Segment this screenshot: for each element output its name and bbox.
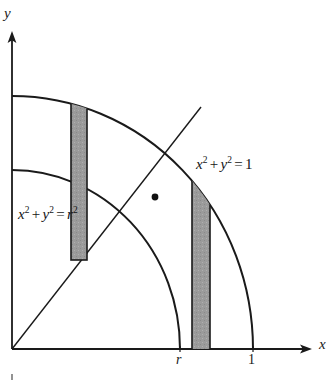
shaded-strip-right: [192, 150, 210, 355]
figure-container: y x r 1 x2+y2=1 x2+y2=r2: [0, 0, 336, 381]
y-axis: [8, 31, 17, 349]
diagram-canvas: [0, 0, 336, 381]
x-axis-label: x: [319, 336, 326, 353]
x-axis: [12, 345, 312, 354]
y-axis-label: y: [4, 5, 11, 22]
diagonal-line: [12, 107, 201, 349]
inner-circle-equation-label: x2+y2=r2: [18, 206, 78, 223]
x-tick-label-one: 1: [248, 352, 255, 368]
inner-eq-plus: +: [30, 206, 43, 222]
outer-eq-plus: +: [208, 156, 221, 172]
point-on-diagonal: [152, 194, 159, 201]
outer-eq-equals: =: [232, 156, 245, 172]
inner-eq-equals: =: [54, 206, 67, 222]
outer-eq-var-x: x: [196, 156, 203, 172]
inner-eq-rhs-exp: 2: [73, 205, 78, 215]
outer-eq-rhs: 1: [245, 156, 253, 172]
inner-eq-var-x: x: [18, 206, 25, 222]
outer-circle-equation-label: x2+y2=1: [196, 156, 253, 173]
x-tick-label-r: r: [176, 352, 181, 368]
